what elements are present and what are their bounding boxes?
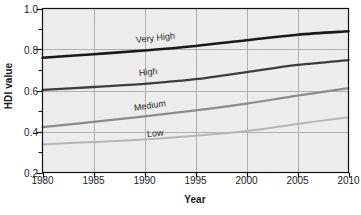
x-tick-label: 1995 [174,175,218,186]
x-tick-label: 1985 [72,175,116,186]
x-axis-title: Year [42,194,348,205]
series-label-low: Low [146,128,163,139]
x-tick-label: 2000 [225,175,269,186]
x-axis-tick-labels: 1980198519901995200020052010 [0,175,361,191]
hdi-line-chart: 0.20.40.60.81.0 198019851990199520002005… [0,0,361,215]
x-tick-label: 2010 [327,175,361,186]
x-tick-label: 2005 [276,175,320,186]
y-axis-title: HDI value [0,0,16,172]
x-tick-label: 1990 [123,175,167,186]
x-tick-label: 1980 [21,175,65,186]
